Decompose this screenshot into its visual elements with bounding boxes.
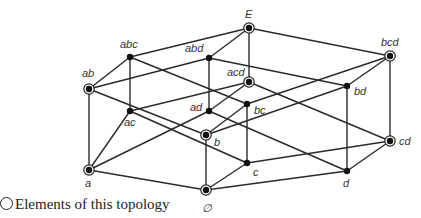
node-label-b: b: [214, 136, 220, 148]
node-b: [201, 130, 211, 140]
edge-bcd-bd: [347, 56, 390, 86]
edge-a-empty: [89, 170, 206, 190]
node-label-acd: acd: [227, 66, 246, 78]
node-bc: [244, 101, 250, 107]
node-ad: [206, 108, 212, 114]
dot-icon: [344, 83, 350, 89]
dot-icon: [127, 54, 133, 60]
node-label-a: a: [85, 177, 91, 189]
node-label-ad: ad: [190, 101, 203, 113]
node-label-abd: abd: [185, 42, 204, 54]
dot-icon: [244, 101, 250, 107]
node-label-c: c: [253, 166, 259, 178]
node-cd: [385, 136, 395, 146]
ring-icon: [0, 197, 13, 210]
edge-d-empty: [206, 171, 347, 190]
dot-icon: [127, 108, 133, 114]
node-E: [244, 23, 254, 33]
node-acd: [244, 77, 254, 87]
dot-icon: [244, 160, 250, 166]
node-label-empty: ∅: [202, 202, 212, 214]
edge-cd-d: [347, 141, 390, 171]
dot-icon: [206, 108, 212, 114]
node-abd: [206, 55, 212, 61]
node-label-E: E: [245, 8, 253, 20]
edge-cd-c: [247, 141, 390, 163]
dot-icon: [246, 79, 252, 85]
node-label-ab: ab: [82, 67, 94, 79]
dot-icon: [387, 53, 393, 59]
node-bcd: [385, 51, 395, 61]
edge-E-bcd: [249, 28, 390, 56]
dot-icon: [203, 132, 209, 138]
node-c: [244, 160, 250, 166]
node-label-abc: abc: [120, 38, 138, 50]
node-label-d: d: [343, 177, 350, 189]
dot-icon: [86, 86, 92, 92]
edge-acd-cd: [249, 82, 390, 141]
node-a: [84, 165, 94, 175]
node-ab: [84, 84, 94, 94]
dot-icon: [206, 55, 212, 61]
node-label-ac: ac: [124, 116, 136, 128]
node-bd: [344, 83, 350, 89]
legend: Elements of this topology: [0, 196, 170, 213]
edge-bcd-bc: [247, 56, 390, 104]
node-label-cd: cd: [399, 135, 412, 147]
node-abc: [127, 54, 133, 60]
dot-icon: [344, 168, 350, 174]
dot-icon: [86, 167, 92, 173]
node-label-bc: bc: [254, 104, 266, 116]
edge-ad-d: [209, 111, 347, 171]
node-label-bd: bd: [354, 85, 367, 97]
node-empty: [201, 185, 211, 195]
edges-layer: [89, 28, 390, 190]
node-ac: [127, 108, 133, 114]
dot-icon: [246, 25, 252, 31]
dot-icon: [387, 138, 393, 144]
edge-ac-c: [130, 111, 247, 163]
legend-text: Elements of this topology: [15, 196, 170, 212]
hasse-diagram: Eabcabdbcdabacdbdadbcaccdabdc∅: [0, 0, 421, 218]
dot-icon: [203, 187, 209, 193]
edge-abd-ab: [89, 58, 209, 89]
edge-ab-b: [89, 89, 206, 135]
node-label-bcd: bcd: [381, 36, 400, 48]
node-d: [344, 168, 350, 174]
